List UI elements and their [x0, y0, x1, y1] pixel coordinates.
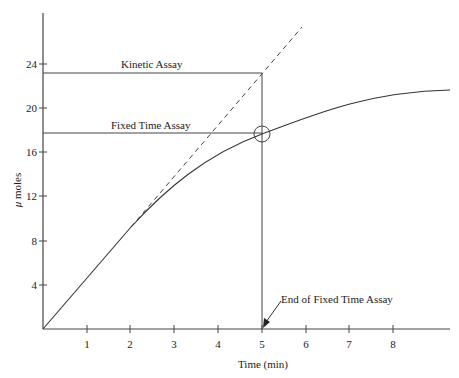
- end-fixed-arrow-head: [263, 318, 270, 328]
- x-tick-labels: 1 2 3 4 5 6 7 8: [84, 338, 396, 350]
- kinetic-assay-label: Kinetic Assay: [121, 58, 183, 70]
- x-tick-8: 8: [390, 338, 396, 350]
- fixed-time-assay-label: Fixed Time Assay: [111, 119, 191, 131]
- end-fixed-arrow-shaft: [266, 301, 281, 322]
- y-axis-title-rest: moles: [11, 173, 23, 202]
- enzyme-assay-chart: 4 8 12 16 20 24 1 2 3 4 5 6 7 8 Time (mi…: [0, 0, 459, 378]
- x-tick-6: 6: [303, 338, 309, 350]
- y-tick-12: 12: [26, 190, 37, 202]
- y-tick-labels: 4 8 12 16 20 24: [26, 58, 38, 291]
- y-tick-8: 8: [32, 235, 38, 247]
- x-axis-title: Time (min): [238, 358, 288, 371]
- y-tick-4: 4: [32, 279, 38, 291]
- x-tick-5: 5: [259, 338, 265, 350]
- y-tick-20: 20: [26, 102, 38, 114]
- end-fixed-time-label: End of Fixed Time Assay: [281, 293, 393, 305]
- x-tick-1: 1: [84, 338, 90, 350]
- y-tick-24: 24: [26, 58, 38, 70]
- y-axis-title: μ moles: [11, 173, 23, 209]
- x-tick-3: 3: [171, 338, 177, 350]
- x-tick-2: 2: [127, 338, 133, 350]
- x-tick-4: 4: [215, 338, 221, 350]
- x-tick-7: 7: [346, 338, 352, 350]
- y-tick-16: 16: [26, 146, 38, 158]
